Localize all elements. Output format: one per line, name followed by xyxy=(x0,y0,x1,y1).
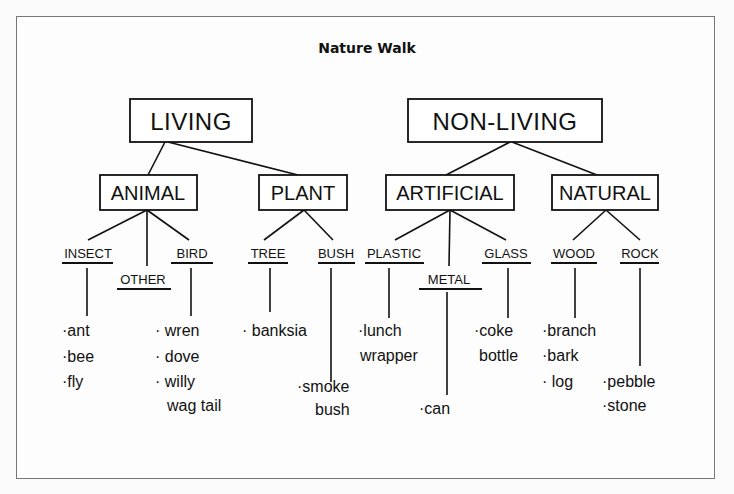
edge-living-animal xyxy=(148,142,165,175)
node-nonliving-label: NON-LIVING xyxy=(432,108,577,135)
leaf-item: wag tail xyxy=(166,397,221,414)
node-animal-label: ANIMAL xyxy=(111,182,185,204)
edge-animal-insect xyxy=(88,210,147,240)
edge-artificial-metal xyxy=(449,210,450,266)
leaf-item: · willy xyxy=(155,373,195,390)
edge-animal-bird xyxy=(147,210,189,240)
edge-plant-bush xyxy=(304,210,333,240)
edge-artificial-plastic xyxy=(395,210,450,240)
leaf-item: ·ant xyxy=(62,322,90,339)
leaf-item: ·branch xyxy=(542,322,596,339)
node-living-label: LIVING xyxy=(150,108,232,135)
edge-nonliving-artificial xyxy=(446,142,510,175)
leaf-item: ·smoke xyxy=(297,378,350,395)
leaf-item: ·stone xyxy=(602,397,647,414)
tree-diagram: LIVING NON-LIVING ANIMAL PLANT ARTIFICIA… xyxy=(0,0,734,494)
leaf-item: bottle xyxy=(479,347,518,364)
leaf-item: · banksia xyxy=(242,322,307,339)
node-plant-label: PLANT xyxy=(271,182,335,204)
category-tree: TREE xyxy=(251,246,286,261)
edge-living-plant xyxy=(168,142,298,175)
category-rock: ROCK xyxy=(621,246,659,261)
leaf-item: · log xyxy=(542,373,573,390)
edge-plant-tree xyxy=(264,210,304,240)
leaf-item: bush xyxy=(315,401,350,418)
edge-artificial-glass xyxy=(450,210,506,240)
leaf-item: ·pebble xyxy=(602,373,655,390)
leaf-item: ·can xyxy=(419,400,450,417)
leaf-item: · dove xyxy=(155,348,200,365)
category-plastic: PLASTIC xyxy=(367,246,421,261)
leaf-item: ·coke xyxy=(474,322,513,339)
leaf-item: ·fly xyxy=(62,373,83,390)
node-artificial-label: ARTIFICIAL xyxy=(396,182,503,204)
leaf-item: · wren xyxy=(155,322,199,339)
category-glass: GLASS xyxy=(484,246,528,261)
leaf-item: ·lunch xyxy=(358,322,402,339)
node-natural-label: NATURAL xyxy=(559,182,651,204)
edge-natural-wood xyxy=(573,210,606,240)
leaf-item: ·bark xyxy=(542,347,579,364)
category-metal: METAL xyxy=(428,272,470,287)
edge-nonliving-natural xyxy=(512,142,597,175)
category-other: OTHER xyxy=(120,272,166,287)
category-insect: INSECT xyxy=(64,246,112,261)
leaf-item: wrapper xyxy=(359,347,418,364)
category-bird: BIRD xyxy=(176,246,207,261)
edge-natural-rock xyxy=(606,210,640,240)
category-bush: BUSH xyxy=(318,246,354,261)
leaf-item: ·bee xyxy=(62,348,94,365)
category-wood: WOOD xyxy=(553,246,595,261)
